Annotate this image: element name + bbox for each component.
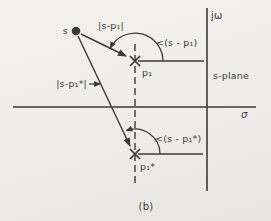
vector-s-to-p1-conjugate [78,36,130,146]
s-plane-label: s-plane [213,70,249,81]
magnitude-s-p1-conjugate-label: |s-p₁*| [56,78,87,89]
s-plane-diagram: jω σ s-plane s |s-p₁| |s-p₁*| <(s - [0,0,271,221]
figure-caption: (b) [139,201,154,212]
scanned-page: jω σ s-plane s |s-p₁| |s-p₁*| <(s - [0,0,271,221]
point-s-dot [72,27,81,36]
point-s-label: s [63,25,68,36]
sigma-axis-label: σ [241,109,248,120]
magnitude-s-p1-label: |s-p₁| [98,20,124,31]
angle-s-p1-label: <(s - p₁) [156,37,197,48]
jw-axis-label: jω [210,10,223,21]
angle-s-p1-conjugate-label: <(s - p₁*) [155,133,201,144]
pole-p1-conjugate-label: p₁* [140,161,155,172]
pole-p1-label: p₁ [142,67,152,78]
